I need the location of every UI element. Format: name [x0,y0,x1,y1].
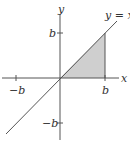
tick-label-y-neg-b: −b [42,117,58,130]
tick-label-y-b: b [49,27,56,40]
line-label: y = x [104,9,130,22]
x-axis-label: x [121,72,128,85]
tick-label-x-b: b [102,84,109,97]
y-axis-label: y [57,3,65,16]
tick-label-x-neg-b: −b [9,84,25,97]
coordinate-diagram: y x y = x b −b −b b [0,0,130,144]
